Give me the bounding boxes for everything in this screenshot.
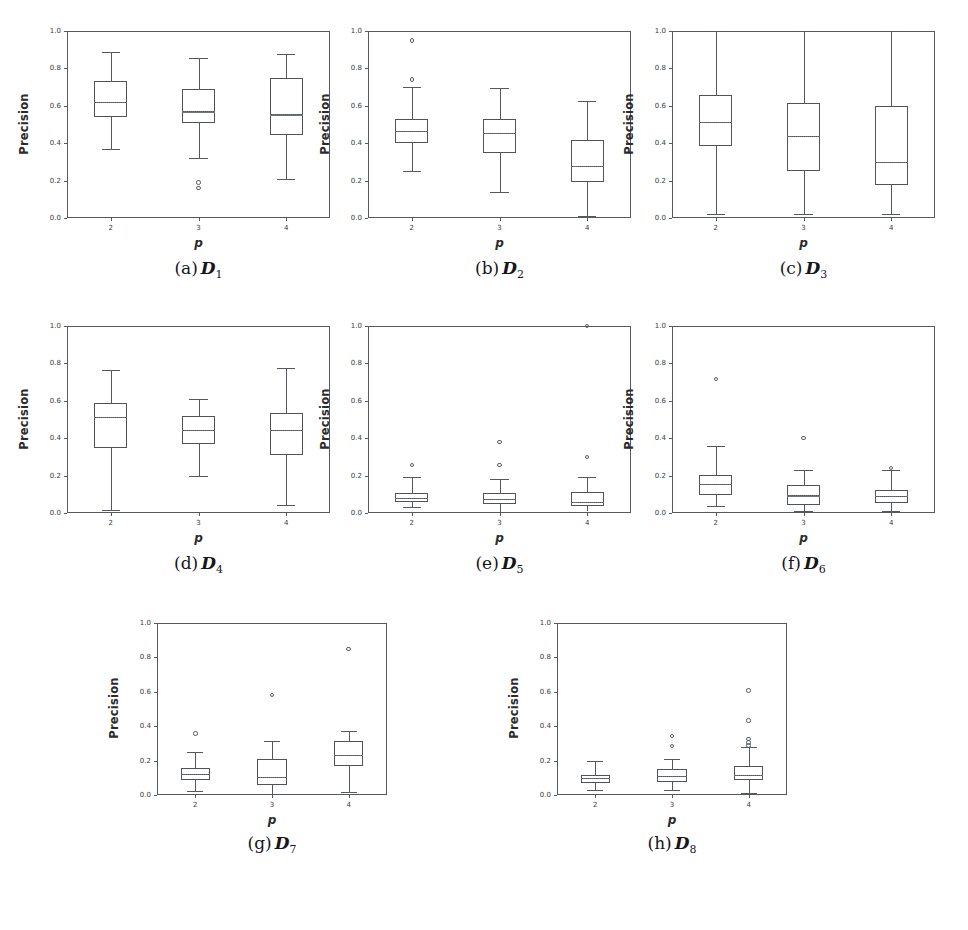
whisker-upper	[195, 752, 196, 768]
outlier-marker	[746, 688, 750, 692]
whisker-cap-upper	[707, 446, 725, 447]
box	[94, 81, 127, 117]
y-tick-mark	[154, 761, 157, 762]
y-tick-label: 1.0	[338, 322, 362, 330]
y-tick-mark	[64, 513, 67, 514]
whisker-lower	[749, 780, 750, 793]
y-tick-label: 0.6	[37, 397, 61, 405]
x-tick-mark	[111, 218, 112, 221]
panel-caption-d: (d)D4	[67, 553, 330, 576]
y-tick-mark	[365, 476, 368, 477]
y-tick-label: 0.2	[338, 472, 362, 480]
whisker-cap-upper	[277, 54, 295, 55]
x-tick-label: 2	[96, 224, 126, 232]
x-tick-mark	[587, 218, 588, 221]
whisker-cap-upper	[882, 470, 900, 471]
y-tick-mark	[64, 68, 67, 69]
y-tick-mark	[669, 326, 672, 327]
y-tick-label: 0.4	[642, 434, 666, 442]
y-tick-label: 0.2	[338, 177, 362, 185]
y-axis-label: Precision	[17, 89, 31, 159]
panel-caption-b: (b)D2	[368, 258, 631, 281]
x-tick-label: 4	[572, 224, 602, 232]
y-tick-mark	[669, 68, 672, 69]
whisker-cap-upper	[102, 370, 120, 371]
whisker-cap-lower	[341, 792, 357, 793]
mean-line	[572, 166, 603, 167]
whisker-cap-lower	[794, 511, 812, 512]
y-axis-label: Precision	[622, 384, 636, 454]
whisker-lower	[716, 146, 717, 214]
whisker-cap-upper	[189, 399, 207, 400]
x-tick-label: 4	[734, 801, 764, 809]
mean-line	[788, 495, 819, 496]
y-axis-label: Precision	[107, 673, 121, 743]
caption-subscript: 2	[517, 268, 524, 281]
y-tick-label: 0.8	[338, 359, 362, 367]
outlier-marker	[714, 377, 718, 381]
whisker-upper	[111, 370, 112, 403]
x-tick-label: 4	[271, 224, 301, 232]
x-tick-label: 3	[485, 519, 515, 527]
x-tick-label: 4	[572, 519, 602, 527]
whisker-lower	[349, 766, 350, 792]
whisker-cap-lower	[403, 507, 421, 508]
y-tick-label: 0.2	[37, 472, 61, 480]
x-tick-mark	[672, 795, 673, 798]
y-tick-label: 0.2	[37, 177, 61, 185]
x-tick-mark	[199, 513, 200, 516]
mean-line	[335, 755, 362, 756]
mean-line	[735, 775, 762, 776]
whisker-lower	[286, 455, 287, 505]
whisker-cap-lower	[102, 510, 120, 511]
y-axis-label: Precision	[318, 89, 332, 159]
y-tick-mark	[669, 106, 672, 107]
y-tick-label: 1.0	[37, 27, 61, 35]
y-tick-label: 0.0	[37, 509, 61, 517]
y-tick-label: 0.8	[127, 653, 151, 661]
y-tick-label: 0.0	[527, 791, 551, 799]
whisker-cap-lower	[102, 149, 120, 150]
caption-symbol: D	[499, 258, 517, 278]
box	[334, 741, 363, 766]
whisker-cap-lower	[578, 216, 596, 217]
y-tick-mark	[64, 106, 67, 107]
panel-caption-a: (a)D1	[67, 258, 330, 281]
outlier-marker	[410, 38, 414, 42]
x-tick-label: 2	[180, 801, 210, 809]
y-tick-label: 0.0	[338, 214, 362, 222]
caption-prefix: (g)	[248, 833, 272, 853]
y-tick-mark	[669, 181, 672, 182]
whisker-cap-upper	[403, 477, 421, 478]
whisker-lower	[199, 444, 200, 476]
whisker-lower	[199, 123, 200, 159]
y-tick-label: 0.8	[642, 359, 666, 367]
y-tick-mark	[365, 143, 368, 144]
whisker-cap-upper	[341, 731, 357, 732]
whisker-upper	[716, 31, 717, 95]
y-tick-label: 0.0	[338, 509, 362, 517]
whisker-cap-upper	[490, 479, 508, 480]
x-tick-label: 3	[257, 801, 287, 809]
mean-line	[271, 430, 302, 431]
y-tick-mark	[669, 401, 672, 402]
box	[875, 106, 908, 185]
box	[787, 103, 820, 171]
x-tick-mark	[412, 513, 413, 516]
mean-line	[484, 133, 515, 134]
y-tick-label: 0.8	[527, 653, 551, 661]
caption-subscript: 5	[517, 563, 524, 576]
whisker-cap-lower	[794, 214, 812, 215]
whisker-cap-lower	[707, 214, 725, 215]
mean-line	[396, 498, 427, 499]
whisker-cap-upper	[189, 58, 207, 59]
x-tick-mark	[272, 795, 273, 798]
whisker-cap-lower	[490, 512, 508, 513]
y-tick-mark	[64, 181, 67, 182]
x-tick-label: 2	[96, 519, 126, 527]
outlier-marker	[746, 718, 750, 722]
y-axis-label: Precision	[318, 384, 332, 454]
x-tick-mark	[500, 513, 501, 516]
whisker-lower	[891, 503, 892, 511]
x-tick-mark	[716, 218, 717, 221]
